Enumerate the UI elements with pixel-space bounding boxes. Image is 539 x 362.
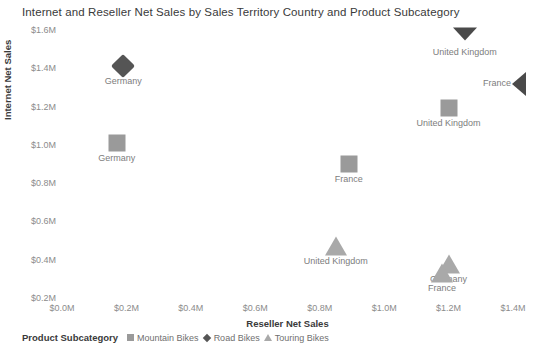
- legend-item-label: Road Bikes: [214, 333, 260, 343]
- data-point-label: France: [483, 78, 511, 88]
- data-point-label: France: [428, 283, 456, 293]
- legend-item[interactable]: Mountain Bikes: [127, 333, 199, 343]
- square-marker-icon: [127, 334, 134, 341]
- x-axis-tick-label: $0.4M: [178, 303, 203, 313]
- x-axis-tick-label: $1.2M: [436, 303, 461, 313]
- y-axis-tick-label: $0.2M: [31, 293, 56, 303]
- legend-item-label: Mountain Bikes: [137, 333, 199, 343]
- x-axis-tick-label: $0.8M: [307, 303, 332, 313]
- y-axis-tick-label: $1.2M: [31, 102, 56, 112]
- data-point-marker[interactable]: [108, 134, 125, 151]
- x-axis-tick-label: $1.4M: [500, 303, 525, 313]
- x-axis-tick-label: $1.0M: [372, 303, 397, 313]
- data-point-marker[interactable]: [325, 237, 347, 256]
- y-axis-tick-label: $1.4M: [31, 63, 56, 73]
- diamond-marker-icon: [202, 333, 210, 341]
- legend: Product Subcategory Mountain BikesRoad B…: [22, 332, 333, 343]
- y-axis-tick-label: $1.6M: [31, 25, 56, 35]
- data-point-marker[interactable]: [431, 264, 453, 283]
- legend-item-label: Touring Bikes: [275, 333, 329, 343]
- data-point-label: Germany: [105, 76, 142, 86]
- legend-item[interactable]: Road Bikes: [203, 333, 260, 343]
- data-points-layer: GermanyFranceUnited KingdomGermanyUnited…: [62, 30, 513, 298]
- chart-title: Internet and Reseller Net Sales by Sales…: [22, 6, 460, 18]
- plot-area: $0.2M$0.4M$0.6M$0.8M$1.0M$1.2M$1.4M$1.6M…: [62, 30, 513, 298]
- data-point-label: United Kingdom: [304, 256, 368, 266]
- scatter-chart: Internet and Reseller Net Sales by Sales…: [0, 0, 539, 362]
- x-axis-tick-label: $0.2M: [114, 303, 139, 313]
- legend-title: Product Subcategory: [22, 332, 118, 343]
- y-axis-tick-label: $0.4M: [31, 255, 56, 265]
- x-axis-tick-label: $0.0M: [49, 303, 74, 313]
- legend-item[interactable]: Touring Bikes: [264, 333, 329, 343]
- data-point-label: France: [335, 174, 363, 184]
- data-point-marker[interactable]: [453, 28, 477, 41]
- y-axis-tick-label: $0.8M: [31, 178, 56, 188]
- data-point-marker[interactable]: [512, 72, 526, 96]
- y-axis-tick-label: $0.6M: [31, 216, 56, 226]
- data-point-label: United Kingdom: [417, 118, 481, 128]
- x-axis-title: Reseller Net Sales: [62, 318, 513, 329]
- data-point-label: Germany: [98, 153, 135, 163]
- x-axis-tick-label: $0.6M: [243, 303, 268, 313]
- y-axis-tick-label: $1.0M: [31, 140, 56, 150]
- data-point-marker[interactable]: [440, 100, 457, 117]
- y-axis-title: Internet Net Sales: [2, 40, 13, 120]
- data-point-label: United Kingdom: [433, 47, 497, 57]
- data-point-marker[interactable]: [111, 54, 135, 78]
- data-point-marker[interactable]: [340, 156, 357, 173]
- triangle-marker-icon: [264, 334, 272, 341]
